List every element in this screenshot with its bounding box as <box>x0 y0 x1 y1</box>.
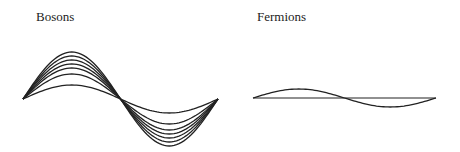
sine-wave <box>23 85 218 113</box>
wave-diagram <box>0 0 460 152</box>
fermions-waves <box>253 89 436 107</box>
bosons-waves <box>23 52 218 146</box>
